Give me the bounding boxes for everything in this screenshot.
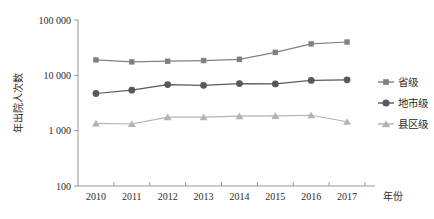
y-axis-tick-label: 100 000 [39, 15, 72, 26]
data-point-marker [237, 57, 242, 62]
data-point-marker [308, 77, 315, 84]
y-axis-tick-label: 1 000 [49, 125, 72, 136]
data-point-marker [344, 39, 349, 44]
x-axis-tick-label: 2013 [194, 191, 214, 202]
legend: 省级地市级县区级 [378, 76, 429, 130]
data-point-marker [272, 81, 279, 88]
series-3 [92, 112, 351, 127]
data-point-marker [164, 81, 171, 88]
y-axis-tick-label: 100 [56, 181, 71, 192]
data-point-marker [128, 87, 135, 94]
data-point-marker [344, 76, 351, 83]
y-axis-title: 年出院人次数 [12, 73, 24, 133]
data-point-marker [200, 82, 207, 89]
data-point-marker [93, 90, 100, 97]
data-point-marker [308, 41, 313, 46]
series-1 [93, 39, 350, 64]
x-axis-title: 年份 [383, 190, 403, 202]
legend-label: 地市级 [398, 97, 429, 109]
chart-canvas: 100 00010 0001 0001002010201120122013201… [0, 0, 434, 219]
line-chart: 100 00010 0001 0001002010201120122013201… [0, 0, 434, 219]
x-axis-tick-label: 2017 [337, 191, 357, 202]
data-point-marker [93, 57, 98, 62]
x-axis-tick-label: 2010 [86, 191, 106, 202]
x-axis-tick-label: 2012 [158, 191, 178, 202]
data-point-marker [382, 99, 389, 106]
data-point-marker [129, 59, 134, 64]
legend-item-3[interactable]: 县区级 [378, 119, 429, 130]
x-axis-tick-label: 2016 [301, 191, 321, 202]
data-point-marker [273, 50, 278, 55]
legend-item-1[interactable]: 省级 [378, 76, 419, 88]
x-axis-tick-label: 2014 [229, 191, 249, 202]
series-2 [93, 76, 351, 96]
legend-item-2[interactable]: 地市级 [378, 97, 429, 109]
data-point-marker [201, 58, 206, 63]
x-axis-tick-label: 2011 [122, 191, 142, 202]
data-point-marker [383, 79, 389, 85]
legend-label: 县区级 [398, 119, 429, 130]
data-point-marker [165, 59, 170, 64]
legend-label: 省级 [398, 76, 419, 88]
y-axis-tick-label: 10 000 [44, 70, 72, 81]
data-point-marker [236, 80, 243, 87]
x-axis-tick-label: 2015 [265, 191, 285, 202]
